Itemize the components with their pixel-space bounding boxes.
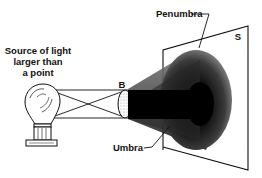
source-label-line1: Source of light xyxy=(5,45,72,56)
obstacle-label-b: B xyxy=(119,79,126,90)
umbra-label: Umbra xyxy=(113,142,144,153)
source-label-line3: a point xyxy=(22,67,54,78)
penumbra-label: Penumbra xyxy=(156,8,203,19)
shadow-diagram: Source of light larger than a point B S … xyxy=(0,0,262,178)
obstacle-b-disk xyxy=(118,90,135,118)
screen-label-s: S xyxy=(235,31,241,42)
light-bulb-icon xyxy=(25,84,60,146)
light-rays xyxy=(52,90,128,118)
source-label-line2: larger than xyxy=(13,56,62,67)
